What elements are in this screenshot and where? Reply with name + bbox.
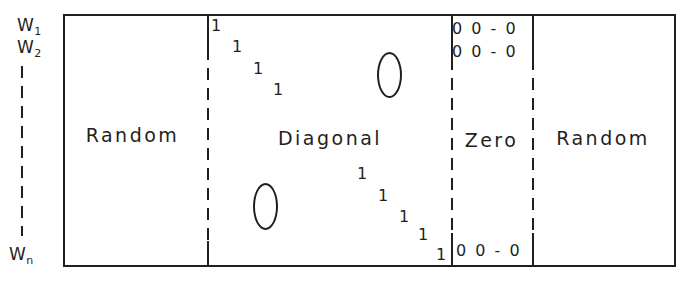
diagonal-one: 1	[357, 166, 367, 182]
diagonal-one: 1	[399, 209, 409, 225]
row-label-w1-base: W	[17, 15, 34, 35]
row-label-w2: W2	[17, 37, 42, 57]
separator-zero-right-bottom	[532, 233, 534, 266]
row-label-wn-subscript: n	[26, 254, 33, 267]
diagonal-one: 1	[418, 227, 428, 243]
diagonal-one: 1	[378, 188, 388, 204]
separator-random-diagonal-top	[207, 15, 209, 48]
diagonal-one: 1	[436, 247, 446, 263]
row-ellipsis-dashed-line	[21, 66, 23, 236]
zero-block-label: Zero	[451, 129, 532, 151]
diagonal-one: 1	[253, 61, 263, 77]
zero-entries-top-row-1: 0 0 - 0	[452, 20, 518, 37]
zero-entries-top-row-2: 0 0 - 0	[452, 43, 518, 60]
large-zero-oval-upper	[377, 52, 402, 98]
separator-zero-left-bottom	[451, 233, 453, 266]
row-label-w1: W1	[17, 15, 42, 35]
row-label-wn-base: W	[9, 244, 26, 264]
separator-zero-right-dashed	[532, 58, 534, 233]
diagonal-one: 1	[232, 39, 242, 55]
weight-matrix-figure: W1 W2 Wn Random Diagonal Zero Random 1 1…	[0, 0, 698, 283]
separator-zero-right-top	[532, 15, 534, 58]
separator-random-diagonal-bottom	[207, 241, 209, 266]
zero-entries-bottom-row: 0 0 - 0	[456, 242, 522, 259]
diagonal-one: 1	[273, 82, 283, 98]
row-label-wn: Wn	[9, 244, 34, 264]
separator-random-diagonal-dashed	[207, 48, 209, 241]
diagonal-block-label: Diagonal	[268, 127, 392, 149]
diagonal-one: 1	[211, 18, 221, 34]
random-left-block-label: Random	[85, 124, 180, 146]
row-label-w2-base: W	[17, 37, 34, 57]
random-right-block-label: Random	[552, 127, 654, 149]
row-label-w2-subscript: 2	[34, 47, 42, 60]
large-zero-oval-lower	[253, 183, 278, 230]
